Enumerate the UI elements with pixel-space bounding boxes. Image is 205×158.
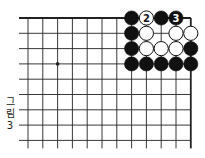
- black-stone-icon: [184, 42, 198, 56]
- board-grid: [19, 18, 191, 148]
- star-points: [56, 62, 60, 66]
- black-stone: [125, 57, 139, 71]
- white-stone-icon: [139, 42, 153, 56]
- white-stone: [184, 26, 198, 40]
- black-stone-icon: [125, 11, 139, 25]
- black-stone-icon: [154, 57, 168, 71]
- black-stone-icon: [169, 57, 183, 71]
- go-board-diagram: 23: [0, 0, 205, 158]
- white-stone-icon: [169, 26, 183, 40]
- black-stone-icon: [125, 57, 139, 71]
- move-number: 3: [173, 13, 180, 24]
- white-stone-icon: [139, 26, 153, 40]
- black-stone-icon: [184, 57, 198, 71]
- black-stone: [154, 57, 168, 71]
- white-stone: [169, 42, 183, 56]
- black-stone-icon: [154, 11, 168, 25]
- black-stone-icon: [125, 42, 139, 56]
- black-stone: [139, 57, 153, 71]
- white-stone: [154, 42, 168, 56]
- black-stone-3: 3: [169, 11, 183, 25]
- black-stone-icon: [139, 57, 153, 71]
- caption-number: 3: [7, 120, 13, 132]
- black-stone: [184, 57, 198, 71]
- move-number: 2: [143, 13, 150, 24]
- black-stone: [169, 57, 183, 71]
- black-stone: [125, 26, 139, 40]
- white-stone: [169, 26, 183, 40]
- black-stone: [125, 11, 139, 25]
- caption-char-2: 림: [6, 108, 15, 120]
- white-stone-2: 2: [139, 11, 153, 25]
- figure-caption: 그 림 3: [3, 96, 17, 132]
- white-stone-icon: [184, 26, 198, 40]
- white-stone-icon: [169, 42, 183, 56]
- black-stone: [125, 42, 139, 56]
- white-stone-icon: [154, 42, 168, 56]
- black-stone-icon: [125, 26, 139, 40]
- white-stone: [139, 42, 153, 56]
- caption-char-1: 그: [6, 96, 15, 108]
- black-stone: [184, 42, 198, 56]
- black-stone: [154, 11, 168, 25]
- white-stone: [139, 26, 153, 40]
- star-point-icon: [56, 62, 60, 66]
